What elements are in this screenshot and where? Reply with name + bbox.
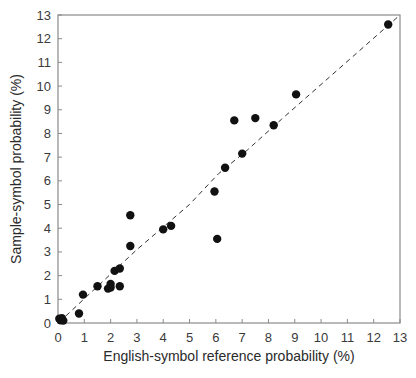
data-point [270, 121, 278, 129]
data-point [221, 164, 229, 172]
y-tick-label: 7 [44, 150, 51, 165]
data-point [230, 116, 238, 124]
y-tick-label: 4 [44, 221, 51, 236]
x-tick-label: 4 [160, 330, 167, 345]
data-point [93, 282, 101, 290]
y-tick-label: 12 [37, 31, 51, 46]
x-tick-label: 0 [54, 330, 61, 345]
x-tick-label: 10 [314, 330, 328, 345]
data-point [210, 187, 218, 195]
x-tick-label: 1 [81, 330, 88, 345]
data-point [116, 264, 124, 272]
y-tick-label: 10 [37, 79, 51, 94]
data-point [213, 235, 221, 243]
data-point [75, 309, 83, 317]
y-axis-label: Sample-symbol probability (%) [8, 74, 24, 264]
y-tick-label: 9 [44, 102, 51, 117]
data-point [292, 90, 300, 98]
data-point [126, 211, 134, 219]
x-tick-label: 6 [212, 330, 219, 345]
x-tick-label: 3 [133, 330, 140, 345]
data-point [106, 280, 114, 288]
data-point [251, 114, 259, 122]
data-point [79, 290, 87, 298]
y-tick-label: 8 [44, 126, 51, 141]
x-tick-label: 7 [239, 330, 246, 345]
x-tick-label: 11 [341, 330, 355, 345]
y-tick-label: 1 [44, 292, 51, 307]
y-tick-label: 6 [44, 173, 51, 188]
y-tick-label: 13 [37, 8, 51, 23]
x-tick-label: 5 [186, 330, 193, 345]
data-point [384, 20, 392, 28]
data-point [116, 282, 124, 290]
x-tick-label: 9 [291, 330, 298, 345]
x-tick-label: 13 [393, 330, 407, 345]
y-tick-label: 11 [38, 55, 52, 70]
data-point [159, 225, 167, 233]
y-tick-label: 0 [44, 316, 51, 331]
scatter-chart: 012345678910111213 012345678910111213 En… [0, 0, 416, 378]
data-point [238, 149, 246, 157]
data-point [59, 316, 67, 324]
x-tick-label: 8 [265, 330, 272, 345]
y-tick-label: 2 [44, 268, 51, 283]
x-axis-label: English-symbol reference probability (%) [103, 348, 354, 364]
y-tick-label: 3 [44, 244, 51, 259]
x-tick-label: 2 [107, 330, 114, 345]
y-tick-label: 5 [44, 197, 51, 212]
x-tick-label: 12 [366, 330, 380, 345]
data-point [167, 222, 175, 230]
data-point [126, 242, 134, 250]
